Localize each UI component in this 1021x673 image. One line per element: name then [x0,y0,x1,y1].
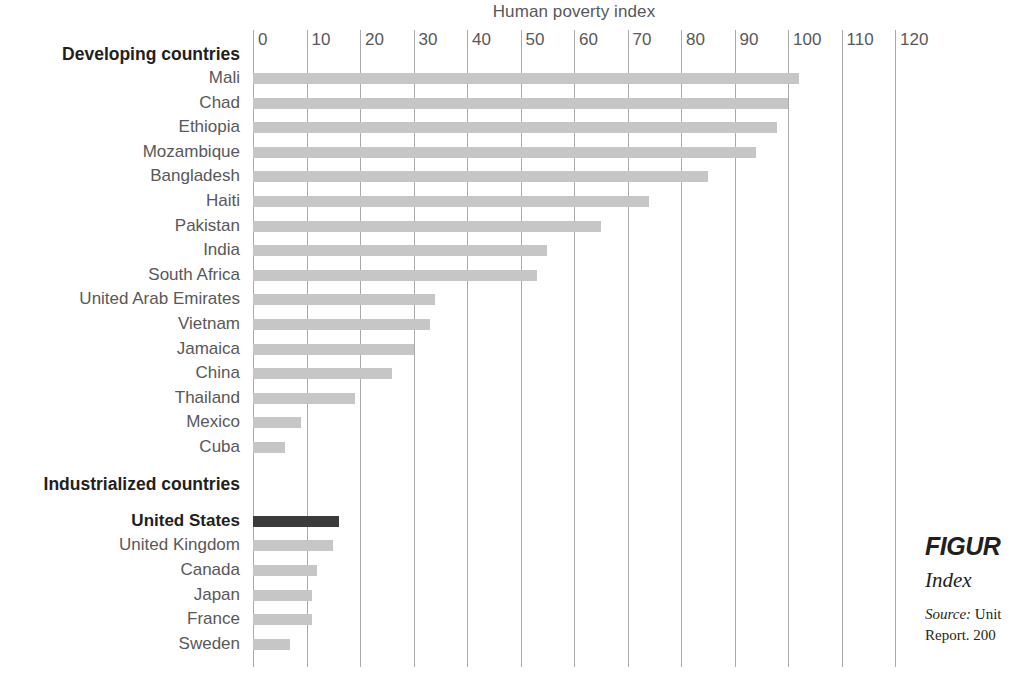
caption-source-text: Unit [975,606,1002,622]
bar-vietnam [253,319,430,330]
row-label-sweden: Sweden [179,634,240,654]
bar-ethiopia [253,122,777,133]
group-heading-developing: Developing countries [62,44,240,65]
row-label-haiti: Haiti [206,191,240,211]
bar-south-africa [253,270,537,281]
row-label-mexico: Mexico [186,412,240,432]
caption-source-line: Source: Unit [925,606,1021,623]
chart-axis-title: Human poverty index [253,2,895,22]
bar-haiti [253,196,649,207]
bar-japan [253,590,312,601]
bar-sweden [253,639,290,650]
gridline-120 [895,30,896,667]
bar-jamaica [253,344,414,355]
caption-subtitle: Index [925,568,1021,593]
bar-united-kingdom [253,540,333,551]
x-tick-100: 100 [788,30,821,50]
row-label-ethiopia: Ethiopia [179,117,240,137]
x-tick-110: 110 [842,30,874,50]
bar-china [253,368,392,379]
row-label-france: France [187,609,240,629]
caption-source-label: Source: [925,606,971,622]
group-heading-industrialized: Industrialized countries [44,474,240,495]
bar-pakistan [253,221,601,232]
row-label-united-arab-emirates: United Arab Emirates [79,289,240,309]
row-label-united-kingdom: United Kingdom [119,535,240,555]
x-tick-20: 20 [360,30,384,50]
x-tick-60: 60 [574,30,598,50]
caption-report-line: Report. 200 [925,627,1021,644]
x-tick-70: 70 [628,30,652,50]
bar-chad [253,98,788,109]
x-tick-120: 120 [895,30,928,50]
bar-thailand [253,393,355,404]
row-label-india: India [203,240,240,260]
x-tick-10: 10 [307,30,331,50]
bar-mexico [253,417,301,428]
bar-france [253,614,312,625]
row-label-bangladesh: Bangladesh [150,166,240,186]
x-tick-50: 50 [521,30,545,50]
row-label-china: China [196,363,240,383]
bar-india [253,245,547,256]
bar-mali [253,73,799,84]
bar-mozambique [253,147,756,158]
row-label-vietnam: Vietnam [178,314,240,334]
row-label-thailand: Thailand [175,388,240,408]
gridline-100 [788,30,789,667]
bar-cuba [253,442,285,453]
row-label-canada: Canada [180,560,240,580]
bar-united-arab-emirates [253,294,435,305]
row-label-mali: Mali [209,68,240,88]
x-tick-90: 90 [735,30,759,50]
x-tick-30: 30 [414,30,438,50]
gridline-110 [842,30,843,667]
human-poverty-index-chart: Human poverty index 01020304050607080901… [0,0,1021,673]
x-tick-40: 40 [467,30,491,50]
x-tick-80: 80 [681,30,705,50]
bar-canada [253,565,317,576]
row-label-cuba: Cuba [199,437,240,457]
caption-figure-title: FIGUR [925,534,1021,559]
bar-united-states [253,516,339,527]
row-label-chad: Chad [199,93,240,113]
row-label-japan: Japan [194,585,240,605]
bar-bangladesh [253,171,708,182]
row-label-pakistan: Pakistan [175,216,240,236]
figure-caption: FIGUR Index Source: Unit Report. 200 [925,534,1021,644]
row-label-mozambique: Mozambique [143,142,240,162]
row-label-united-states: United States [131,511,240,531]
row-label-jamaica: Jamaica [177,339,240,359]
x-tick-0: 0 [253,30,267,50]
row-label-south-africa: South Africa [148,265,240,285]
